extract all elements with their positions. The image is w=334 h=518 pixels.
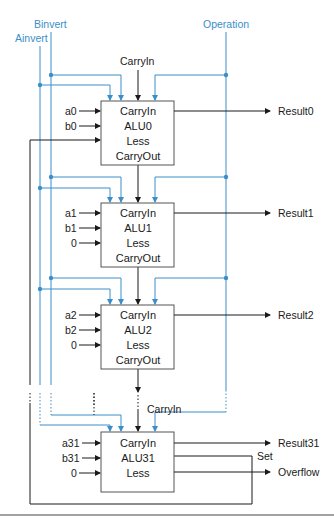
operation-label: Operation <box>203 18 249 30</box>
svg-text:ALU31: ALU31 <box>121 452 155 464</box>
alu0-block: CarryIn ALU0 Less CarryOut <box>101 101 174 165</box>
svg-text:CarryOut: CarryOut <box>116 150 161 162</box>
input-b2: b2 <box>65 324 77 336</box>
input-a0: a0 <box>65 105 77 117</box>
svg-text:CarryIn: CarryIn <box>120 437 156 449</box>
result0: Result0 <box>278 105 314 117</box>
svg-text:CarryOut: CarryOut <box>116 354 161 366</box>
result2: Result2 <box>278 309 314 321</box>
stage2-control <box>40 278 226 304</box>
input-b0: b0 <box>65 120 77 132</box>
less-input-1: 0 <box>71 237 77 249</box>
svg-text:Less: Less <box>126 339 150 351</box>
result31: Result31 <box>278 437 320 449</box>
svg-text:CarryIn: CarryIn <box>120 105 156 117</box>
input-a1: a1 <box>65 207 77 219</box>
svg-text:CarryIn: CarryIn <box>120 207 156 219</box>
set-label: Set <box>257 450 273 462</box>
binvert-label: Binvert <box>34 18 67 30</box>
less-input-2: 0 <box>71 339 77 351</box>
overflow-label: Overflow <box>278 466 320 478</box>
ainvert-label: Ainvert <box>15 32 48 44</box>
alu31-block: CarryIn ALU31 Less <box>101 432 174 492</box>
svg-text:ALU2: ALU2 <box>124 324 152 336</box>
svg-text:CarryOut: CarryOut <box>116 252 161 264</box>
stage0-control <box>40 75 226 100</box>
svg-text:Less: Less <box>126 237 150 249</box>
input-a2: a2 <box>65 309 77 321</box>
svg-text:ALU1: ALU1 <box>124 222 152 234</box>
alu1-block: CarryIn ALU1 Less CarryOut <box>101 203 174 267</box>
carryin-top-label: CarryIn <box>120 55 155 67</box>
alu2-block: CarryIn ALU2 Less CarryOut <box>101 305 174 369</box>
carryin-last-label: CarryIn <box>147 403 182 415</box>
svg-text:CarryIn: CarryIn <box>120 309 156 321</box>
svg-text:Less: Less <box>126 467 150 479</box>
input-b31: b31 <box>62 452 80 464</box>
svg-text:Less: Less <box>126 135 150 147</box>
result1: Result1 <box>278 207 314 219</box>
stage1-control <box>40 177 226 202</box>
stage31-control <box>40 412 226 431</box>
alu-diagram: Binvert Ainvert Operation CarryIn <box>0 0 334 518</box>
input-b1: b1 <box>65 222 77 234</box>
input-a31: a31 <box>62 437 80 449</box>
svg-text:ALU0: ALU0 <box>124 120 152 132</box>
less-input-31: 0 <box>71 467 77 479</box>
